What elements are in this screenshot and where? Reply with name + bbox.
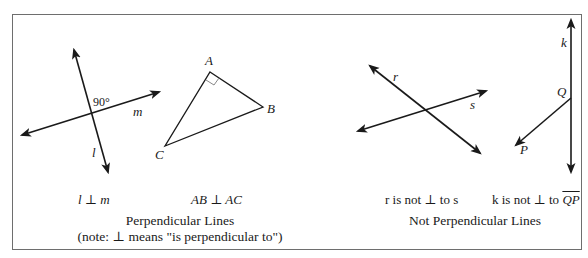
vertex-a-label: A [205,53,213,69]
line-r-label: r [393,69,398,85]
statement-k-not-perp-qp: k is not ⊥ to QP [492,192,580,208]
statement-r-not-perp-s: r is not ⊥ to s [385,192,458,208]
line-l-label: l [92,145,96,161]
angle-label: 90° [93,95,110,110]
line-m-label: m [133,104,142,120]
line-l [74,50,108,172]
statement-l-perp-m: l ⊥ m [78,192,110,208]
line-s [358,91,486,131]
right-triangle-abc [165,72,263,146]
ray-qp-notation: QP [562,192,579,207]
point-p-label: P [520,142,528,158]
caption-not-perpendicular: Not Perpendicular Lines [390,213,560,229]
caption-note: (note: ⊥ means "is perpendicular to") [40,228,320,245]
vertex-b-label: B [267,101,275,117]
line-k-label: k [561,35,567,51]
non-perpendicular-lines-r-s [358,66,486,153]
statement-ab-perp-ac: AB ⊥ AC [191,192,242,208]
ray-qp [516,98,571,145]
right-angle-mark [206,78,219,85]
statement-prefix: k is not ⊥ to [492,192,562,207]
caption-perpendicular: Perpendicular Lines [60,213,300,229]
point-q-label: Q [557,84,566,100]
vertex-c-label: C [155,147,164,163]
line-s-label: s [470,97,475,113]
